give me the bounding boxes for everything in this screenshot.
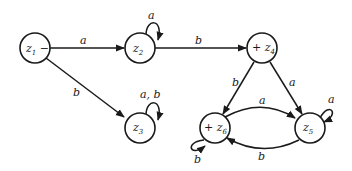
node-z3: z3 <box>125 113 155 143</box>
node-label-z6: + <box>204 121 217 134</box>
edge-label-z2-self: a <box>148 9 155 22</box>
edge-z1-z3 <box>46 58 124 117</box>
edge-z6-self <box>191 140 205 150</box>
edges: a b a b a, b b a a b a b <box>46 9 335 166</box>
node-label-z4: + <box>252 41 265 54</box>
edge-z6-z5 <box>225 107 295 118</box>
edge-label-z4-z5: a <box>289 76 296 89</box>
edge-label-z6-self: b <box>194 153 201 166</box>
edge-z5-z6 <box>227 138 299 149</box>
edge-z4-z5 <box>270 62 302 114</box>
edge-label-z5-self: a <box>328 93 335 106</box>
edge-label-z4-z6: b <box>232 76 239 89</box>
node-z1: z1 − <box>20 33 50 63</box>
edge-label-z1-z3: b <box>73 86 80 99</box>
svg-text:z1 −: z1 − <box>25 42 49 57</box>
node-z2: z2 <box>125 33 155 63</box>
node-z4: + z4 <box>247 33 277 63</box>
edge-label-z6-z5: a <box>259 94 266 107</box>
node-z6: + z6 <box>200 113 230 143</box>
edge-label-z3-self: a, b <box>140 88 161 101</box>
edge-label-z2-z4: b <box>195 34 202 47</box>
automaton-diagram: a b a b a, b b a a b a b z1 − <box>0 0 352 171</box>
edge-label-z1-z2: a <box>80 34 87 47</box>
node-z5: z5 <box>295 113 325 143</box>
edge-label-z5-z6: b <box>258 150 265 163</box>
